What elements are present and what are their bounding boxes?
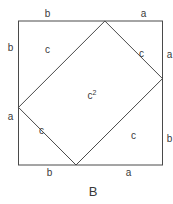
inner-edge-label-bottom-right: c — [131, 130, 136, 141]
outer-label-left-b: b — [8, 42, 14, 53]
figure-caption: B — [89, 184, 98, 199]
outer-label-top-b: b — [45, 8, 51, 19]
inner-edge-label-bottom-left: c — [39, 125, 44, 136]
outer-label-bottom-b: b — [47, 167, 53, 178]
area-exponent: 2 — [93, 89, 97, 96]
inner-edge-label-top-right: c — [139, 48, 144, 59]
pythagorean-diagram: b a a b b a b a c c c c c2 B — [0, 0, 173, 204]
outer-label-right-b: b — [167, 133, 173, 144]
area-label: c2 — [88, 89, 97, 101]
outer-label-left-a: a — [8, 111, 14, 122]
inner-edge-label-top-left: c — [45, 44, 50, 55]
outer-label-bottom-a: a — [126, 167, 132, 178]
outer-label-top-a: a — [141, 8, 147, 19]
outer-label-right-a: a — [167, 49, 173, 60]
